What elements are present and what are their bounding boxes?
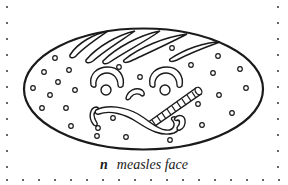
measles-spot — [64, 106, 69, 111]
measles-spot — [124, 135, 129, 140]
measles-spot — [170, 46, 175, 51]
figure-title: measles face — [117, 157, 188, 172]
measles-spot — [31, 86, 36, 91]
border-dot — [182, 179, 184, 181]
dotted-border — [6, 6, 280, 181]
border-dot — [277, 86, 279, 88]
measles-spot — [96, 126, 101, 131]
border-dot — [6, 70, 8, 72]
border-dot — [277, 102, 279, 104]
border-dot — [214, 179, 216, 181]
face-ellipse — [24, 29, 263, 150]
measles-spot — [138, 75, 143, 80]
border-dot — [277, 118, 279, 120]
border-dot — [54, 179, 56, 181]
border-dot — [6, 118, 8, 120]
measles-spot — [111, 116, 116, 121]
measles-spot — [67, 68, 72, 73]
border-dot — [118, 179, 120, 181]
border-dot — [102, 179, 104, 181]
measles-spot — [53, 56, 58, 61]
border-dot — [166, 179, 168, 181]
border-dot — [22, 179, 24, 181]
border-dot — [150, 179, 152, 181]
eye-right — [160, 85, 170, 95]
measles-spot — [40, 106, 45, 111]
measles-spot — [189, 63, 194, 68]
border-dot — [277, 22, 279, 24]
measles-spot — [117, 65, 122, 70]
border-dot — [277, 54, 279, 56]
measles-spot — [42, 70, 47, 75]
border-dot — [6, 179, 8, 181]
measles-spot — [56, 80, 61, 85]
border-dot — [86, 179, 88, 181]
border-dot — [6, 134, 8, 136]
border-dot — [6, 38, 8, 40]
measles-spot — [217, 93, 222, 98]
measles-spot — [73, 88, 78, 93]
measles-spot — [48, 93, 53, 98]
border-dot — [277, 70, 279, 72]
border-dot — [6, 22, 8, 24]
border-dot — [198, 179, 200, 181]
border-dot — [6, 6, 8, 8]
measles-spot — [238, 67, 243, 72]
measles-spot — [69, 124, 74, 129]
border-dot — [38, 179, 40, 181]
measles-spot — [244, 86, 249, 91]
border-dot — [277, 134, 279, 136]
border-dot — [277, 38, 279, 40]
border-dot — [278, 179, 280, 181]
border-dot — [6, 150, 8, 152]
eyebrow-right — [150, 67, 183, 87]
border-dot — [134, 179, 136, 181]
nose — [126, 89, 144, 100]
border-dot — [70, 179, 72, 181]
border-dot — [6, 54, 8, 56]
border-dot — [6, 86, 8, 88]
measles-spot — [168, 138, 173, 143]
border-dot — [6, 102, 8, 104]
measles-spot — [230, 111, 235, 116]
border-dot — [262, 179, 264, 181]
border-dot — [277, 150, 279, 152]
measles-spot — [216, 54, 221, 59]
border-dot — [277, 6, 279, 8]
figure-caption: nmeasles face — [0, 157, 288, 173]
measles-spot — [196, 102, 201, 107]
eyebrow-left — [91, 67, 124, 87]
border-dot — [230, 179, 232, 181]
figure-letter: n — [100, 157, 108, 172]
measles-spot — [211, 71, 216, 76]
eye-left — [101, 85, 111, 95]
border-dot — [246, 179, 248, 181]
measles-spot — [200, 123, 205, 128]
measles-spot — [95, 134, 100, 139]
